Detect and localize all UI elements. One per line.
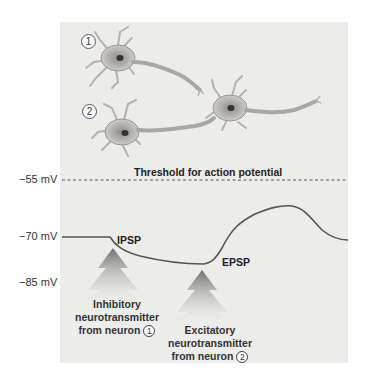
- excitatory-arrow: [172, 270, 232, 322]
- excitatory-caption-line3: from neuron 2: [160, 350, 260, 363]
- inhibitory-caption: Inhibitory neurotransmitter from neuron …: [72, 298, 162, 337]
- membrane-potential-trace: [62, 206, 348, 264]
- y-tick-minus-85: −85 mV: [19, 276, 57, 288]
- postsynaptic-neuron: [206, 76, 321, 130]
- epsp-label: EPSP: [222, 256, 250, 268]
- neuron-2-number: 2: [82, 104, 97, 119]
- excitatory-caption-line1: Excitatory: [160, 324, 260, 337]
- inhibitory-caption-line3: from neuron 1: [72, 324, 162, 337]
- neuron-1: [86, 27, 204, 96]
- inhibitory-caption-from: from neuron: [79, 324, 141, 336]
- y-tick-minus-55: −55 mV: [19, 173, 57, 185]
- excitatory-caption-line2: neurotransmitter: [160, 337, 260, 350]
- excitatory-caption-from: from neuron: [172, 350, 234, 362]
- neuron-2-badge: 2: [236, 351, 248, 363]
- y-tick-minus-70: −70 mV: [19, 230, 57, 242]
- psp-diagram: [0, 0, 368, 377]
- inhibitory-arrow: [82, 248, 144, 302]
- excitatory-caption: Excitatory neurotransmitter from neuron …: [160, 324, 260, 363]
- neuron-1-number: 1: [81, 34, 96, 49]
- neuron-1-badge: 1: [143, 325, 155, 337]
- inhibitory-caption-line1: Inhibitory: [72, 298, 162, 311]
- threshold-label: Threshold for action potential: [134, 166, 282, 178]
- neuron-2: [92, 100, 214, 156]
- inhibitory-caption-line2: neurotransmitter: [72, 311, 162, 324]
- ipsp-label: IPSP: [117, 234, 141, 246]
